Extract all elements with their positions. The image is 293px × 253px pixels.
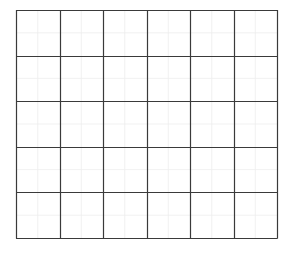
grid — [0, 0, 293, 253]
